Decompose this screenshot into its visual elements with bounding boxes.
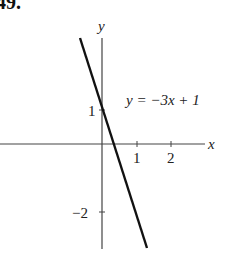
y-tick-label-1: 1 (88, 103, 96, 119)
x-tick-label-2: 2 (167, 150, 175, 166)
x-tick-label-1: 1 (133, 150, 141, 166)
graph: y x 1 2 1 −2 y = −3x + 1 (0, 0, 232, 259)
y-axis-label: y (96, 18, 105, 34)
x-axis-label: x (207, 136, 215, 152)
equation-label: y = −3x + 1 (124, 92, 200, 108)
y-tick-label-neg2: −2 (72, 205, 88, 221)
